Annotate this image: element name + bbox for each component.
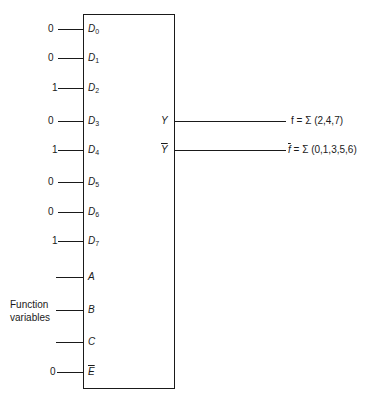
input-value: 0 <box>48 176 54 188</box>
input-label: D7 <box>88 235 99 250</box>
input-value: 0 <box>48 52 54 64</box>
input-label: D5 <box>88 176 99 191</box>
input-value: 0 <box>48 23 54 35</box>
function-variables-label: Functionvariables <box>10 298 50 324</box>
output-y-line <box>175 121 286 122</box>
input-line <box>58 121 83 122</box>
input-label: D1 <box>88 52 99 67</box>
input-label: D0 <box>88 23 99 38</box>
output-ybar-line <box>175 150 286 151</box>
enable-label: E <box>88 366 95 378</box>
input-label: D4 <box>88 144 99 159</box>
input-value: 0 <box>48 206 54 218</box>
multiplexer-block <box>83 14 175 389</box>
input-label: D2 <box>88 82 99 97</box>
select-line <box>56 277 83 278</box>
enable-line <box>57 372 83 373</box>
input-value: 1 <box>52 144 58 156</box>
enable-value: 0 <box>50 366 56 378</box>
input-line <box>58 182 83 183</box>
output-ybar-expr: f = Σ (0,1,3,5,6) <box>288 144 357 156</box>
output-y-label: Y <box>161 115 168 127</box>
input-line <box>58 58 83 59</box>
input-line <box>58 212 83 213</box>
input-line <box>58 150 83 151</box>
input-value: 1 <box>52 82 58 94</box>
select-line <box>56 310 83 311</box>
select-label: C <box>88 336 95 348</box>
select-label: A <box>88 271 95 283</box>
output-ybar-label: Y <box>161 144 168 156</box>
input-line <box>58 29 83 30</box>
select-label: B <box>88 304 95 316</box>
input-value: 0 <box>48 115 54 127</box>
output-y-expr: f = Σ (2,4,7) <box>291 115 343 127</box>
input-value: 1 <box>52 235 58 247</box>
input-line <box>58 88 83 89</box>
input-line <box>58 241 83 242</box>
select-line <box>56 342 83 343</box>
input-label: D6 <box>88 206 99 221</box>
input-label: D3 <box>88 115 99 130</box>
